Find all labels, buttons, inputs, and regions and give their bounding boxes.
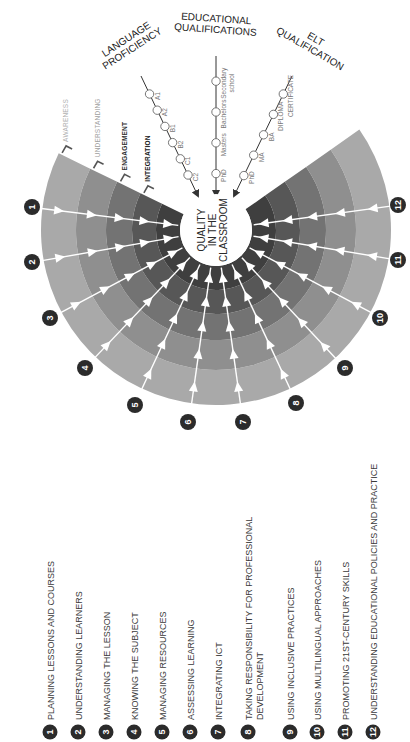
axis-tick-marker xyxy=(145,90,153,98)
axis-tick-label: MA xyxy=(258,152,265,162)
axis-tick-label: B2 xyxy=(177,140,184,148)
axis-tick-label: PhD xyxy=(220,169,227,182)
svg-text:11: 11 xyxy=(340,727,350,737)
ring-label-awareness: AWARENESS xyxy=(62,99,69,142)
legend-item-8: 8TAKING RESPONSIBILITY FOR PROFESSIONALD… xyxy=(241,517,265,740)
legend-label: MANAGING RESOURCES xyxy=(158,611,168,720)
svg-text:10: 10 xyxy=(312,727,322,737)
legend-label: UNDERSTANDING LEARNERS xyxy=(74,591,84,720)
legend-item-5: 5MANAGING RESOURCES xyxy=(155,611,170,739)
bracket-icon xyxy=(62,146,72,153)
center-hub: QUALITYIN THECLASSROOM xyxy=(180,194,252,266)
axis-title: ELTQUALIFICATION xyxy=(275,15,352,72)
axis-tick-label: C2 xyxy=(192,172,199,181)
axis-tick-marker xyxy=(212,169,220,177)
svg-text:5: 5 xyxy=(157,729,167,734)
svg-text:12: 12 xyxy=(368,727,378,737)
svg-text:6: 6 xyxy=(183,419,193,424)
teacher-development-framework-diagram: AWARENESSUNDERSTANDINGENGAGEMENTINTEGRAT… xyxy=(0,0,410,742)
svg-text:8: 8 xyxy=(291,400,301,405)
axis-tick-label: B1 xyxy=(169,124,176,132)
legend-item-9: 9USING INCLUSIVE PRACTICES xyxy=(283,587,298,739)
legend-label: USING INCLUSIVE PRACTICES xyxy=(286,587,296,720)
axis-tick-marker xyxy=(176,155,184,163)
badge-11: 11 xyxy=(390,252,406,268)
svg-text:8: 8 xyxy=(243,729,253,734)
axis-tick-label: BA xyxy=(268,132,275,141)
legend-item-6: 6ASSESSING LEARNING xyxy=(183,619,198,739)
legend-label: KNOWING THE SUBJECT xyxy=(130,612,140,720)
svg-text:9: 9 xyxy=(340,365,350,370)
axis-tick-marker xyxy=(240,171,248,179)
axis-educational-qualifications: SecondaryschoolBachelorsMastersPhDEDUCAT… xyxy=(174,10,258,196)
svg-text:11: 11 xyxy=(393,255,403,265)
axis-tick-label: Masters xyxy=(220,132,227,156)
axis-tick-marker xyxy=(259,131,267,139)
axis-tick-marker xyxy=(161,122,169,130)
axis-title: EDUCATIONALQUALIFICATIONS xyxy=(174,10,258,38)
badge-6: 6 xyxy=(180,414,196,430)
legend-item-10: 10USING MULTILINGUAL APPROACHES xyxy=(310,560,325,740)
bracket-icon xyxy=(94,161,104,168)
legend-item-4: 4KNOWING THE SUBJECT xyxy=(127,612,142,740)
svg-text:6: 6 xyxy=(185,729,195,734)
axis-tick-label: CERTIFICATE xyxy=(287,74,294,117)
svg-text:10: 10 xyxy=(375,313,385,323)
axis-tick-marker xyxy=(279,90,287,98)
bracket-icon xyxy=(121,174,131,181)
svg-text:3: 3 xyxy=(45,315,55,320)
axis-tick-marker xyxy=(212,77,220,85)
legend-label: TAKING RESPONSIBILITY FOR PROFESSIONALDE… xyxy=(244,517,265,720)
axis-tick-label: C1 xyxy=(184,156,191,165)
legend-label: PROMOTING 21ST-CENTURY SKILLS xyxy=(341,562,351,720)
axis-tick-label: DIPLOMA xyxy=(277,101,284,131)
axis-tick-marker xyxy=(269,110,277,118)
badge-7: 7 xyxy=(235,414,251,430)
badge-5: 5 xyxy=(127,397,143,413)
axis-title: LANGUAGEPROFICIENCY xyxy=(94,16,164,72)
svg-text:2: 2 xyxy=(27,259,37,264)
legend-label: UNDERSTANDING EDUCATIONAL POLICIES AND P… xyxy=(369,464,379,720)
legend-label: MANAGING THE LESSON xyxy=(102,612,112,720)
badge-2: 2 xyxy=(24,254,40,270)
svg-text:12: 12 xyxy=(393,200,403,210)
badge-1: 1 xyxy=(24,199,40,215)
axis-tick-marker xyxy=(184,171,192,179)
axis-tick-marker xyxy=(212,139,220,147)
badge-8: 8 xyxy=(288,395,304,411)
svg-text:1: 1 xyxy=(45,729,55,734)
axis-tick-marker xyxy=(212,108,220,116)
svg-text:3: 3 xyxy=(101,729,111,734)
badge-3: 3 xyxy=(42,310,58,326)
legend-item-3: 3MANAGING THE LESSON xyxy=(99,612,114,740)
svg-text:9: 9 xyxy=(285,729,295,734)
ring-label-understanding: UNDERSTANDING xyxy=(94,98,101,157)
legend-item-1: 1PLANNING LESSONS AND COURSES xyxy=(43,561,58,740)
axis-tick-label: PhD xyxy=(248,171,255,184)
axis-tick-marker xyxy=(153,106,161,114)
badge-4: 4 xyxy=(77,360,93,376)
svg-text:4: 4 xyxy=(129,729,139,734)
legend-item-12: 12UNDERSTANDING EDUCATIONAL POLICIES AND… xyxy=(366,464,381,740)
ring-label-integration: INTEGRATION xyxy=(144,135,151,182)
legend-label: ASSESSING LEARNING xyxy=(186,619,196,720)
axis-tick-label: Bachelors xyxy=(220,99,227,129)
svg-text:5: 5 xyxy=(130,402,140,407)
svg-text:4: 4 xyxy=(80,365,90,370)
legend-item-11: 11PROMOTING 21ST-CENTURY SKILLS xyxy=(338,562,353,740)
competency-legend: 1PLANNING LESSONS AND COURSES2UNDERSTAND… xyxy=(43,464,381,740)
legend-label: PLANNING LESSONS AND COURSES xyxy=(46,561,56,720)
svg-text:7: 7 xyxy=(213,729,223,734)
legend-item-2: 2UNDERSTANDING LEARNERS xyxy=(71,591,86,739)
axis-tick-label: Secondaryschool xyxy=(220,67,235,99)
svg-text:7: 7 xyxy=(238,419,248,424)
legend-item-7: 7INTEGRATING ICT xyxy=(211,642,226,740)
badge-9: 9 xyxy=(337,360,353,376)
legend-label: USING MULTILINGUAL APPROACHES xyxy=(313,560,323,720)
axis-tick-marker xyxy=(250,151,258,159)
legend-label: INTEGRATING ICT xyxy=(214,642,224,720)
bracket-icon xyxy=(144,186,154,193)
axis-tick-label: A2 xyxy=(161,108,168,116)
axis-tick-label: A1 xyxy=(154,92,161,100)
axis-tick-marker xyxy=(168,138,176,146)
